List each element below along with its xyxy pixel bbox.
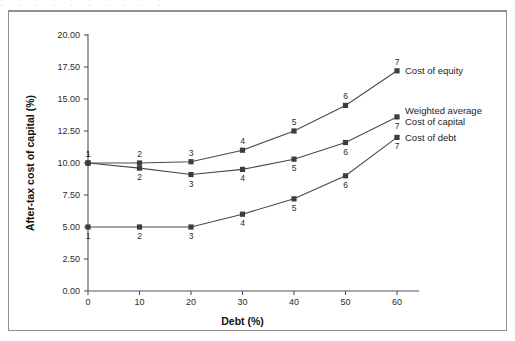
data-point-marker [240, 167, 245, 172]
data-point-marker [85, 160, 90, 165]
x-tick-label: 50 [340, 297, 350, 307]
figure-page: · · · · · · · · · · 0.002.505.007.5010.0… [0, 0, 515, 341]
data-point-label: 3 [189, 179, 194, 189]
data-point-label: 5 [292, 203, 297, 213]
data-point-marker [343, 140, 348, 145]
y-tick-label: 10.00 [57, 158, 80, 168]
data-point-label: 4 [240, 173, 245, 183]
data-point-label: 3 [189, 148, 194, 158]
data-point-marker [188, 172, 193, 177]
y-axis-title: After-tax cost of capital (%) [24, 95, 36, 231]
data-point-label: 2 [137, 172, 142, 182]
data-point-marker [343, 103, 348, 108]
y-tick-label: 7.50 [62, 190, 80, 200]
data-point-marker [394, 114, 399, 119]
data-point-label: 4 [240, 218, 245, 228]
data-point-marker [240, 212, 245, 217]
data-point-label: 7 [395, 141, 400, 151]
data-point-marker [188, 224, 193, 229]
data-point-label: 2 [137, 149, 142, 159]
x-tick-label: 0 [85, 297, 90, 307]
series-end-label: Cost of debt [405, 132, 457, 143]
data-point-marker [291, 128, 296, 133]
data-point-label: 3 [189, 231, 194, 241]
data-point-label: 6 [343, 180, 348, 190]
series-end-label-line1: Weighted average [405, 105, 482, 116]
y-tick-label: 15.00 [57, 94, 80, 104]
data-point-label: 7 [395, 121, 400, 131]
chart-canvas: 0.002.505.007.5010.0012.5015.0017.5020.0… [0, 0, 515, 341]
y-tick-label: 17.50 [57, 62, 80, 72]
x-tick-label: 40 [289, 297, 299, 307]
series-end-label: Cost of equity [405, 65, 463, 76]
y-tick-label: 12.50 [57, 126, 80, 136]
x-tick-label: 20 [186, 297, 196, 307]
data-point-marker [137, 224, 142, 229]
data-point-marker [343, 173, 348, 178]
data-point-marker [240, 148, 245, 153]
data-point-label: 1 [86, 149, 91, 159]
y-tick-label: 20.00 [57, 30, 80, 40]
data-point-label: 1 [86, 231, 91, 241]
data-point-marker [137, 166, 142, 171]
data-point-label: 5 [292, 163, 297, 173]
data-point-marker [85, 224, 90, 229]
data-point-label: 4 [240, 136, 245, 146]
data-point-label: 7 [395, 57, 400, 67]
data-point-marker [291, 196, 296, 201]
x-tick-label: 10 [134, 297, 144, 307]
data-point-marker [394, 135, 399, 140]
line-chart-svg: 0.002.505.007.5010.0012.5015.0017.5020.0… [0, 0, 515, 341]
data-point-label: 6 [343, 147, 348, 157]
x-tick-label: 60 [392, 297, 402, 307]
data-point-label: 2 [137, 231, 142, 241]
data-point-label: 5 [292, 117, 297, 127]
data-point-label: 6 [343, 91, 348, 101]
series-end-label-line2: Cost of capital [405, 116, 465, 127]
y-tick-label: 0.00 [62, 286, 80, 296]
y-tick-label: 2.50 [62, 254, 80, 264]
data-point-marker [394, 68, 399, 73]
data-point-marker [291, 157, 296, 162]
x-tick-label: 30 [237, 297, 247, 307]
data-point-marker [137, 160, 142, 165]
y-tick-label: 5.00 [62, 222, 80, 232]
data-point-marker [188, 159, 193, 164]
x-axis-title: Debt (%) [221, 315, 264, 327]
